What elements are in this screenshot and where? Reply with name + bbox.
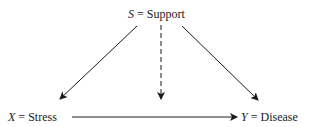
node-stress-variable: X	[8, 110, 15, 124]
node-support: S = Support	[128, 7, 185, 21]
edge-support-disease	[182, 26, 258, 100]
edge-support-stress	[60, 26, 137, 99]
node-stress: X = Stress	[8, 110, 57, 124]
node-stress-label: Stress	[28, 110, 57, 124]
node-disease-equals: =	[251, 110, 258, 124]
node-disease-label: Disease	[260, 110, 297, 124]
node-support-label: Support	[147, 7, 185, 21]
node-stress-equals: =	[18, 110, 25, 124]
node-support-equals: =	[137, 7, 144, 21]
node-disease: Y = Disease	[241, 110, 298, 124]
node-disease-variable: Y	[241, 110, 248, 124]
node-support-variable: S	[128, 7, 134, 21]
